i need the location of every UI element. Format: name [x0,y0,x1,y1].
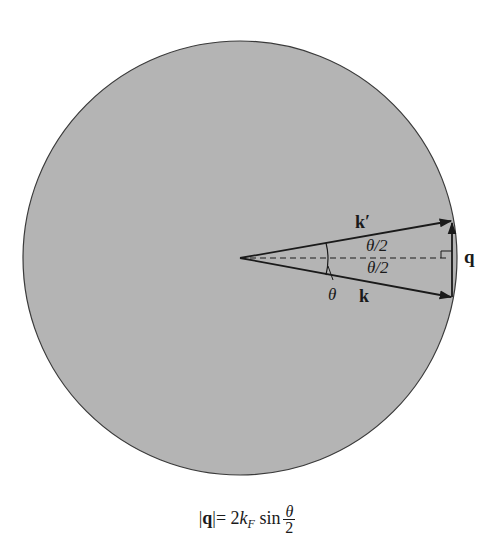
formula-k: k [240,508,248,528]
fermi-sphere-diagram [0,0,494,543]
formula-subscript: F [248,517,255,531]
magnitude-formula: |q|= 2kF sinθ2 [0,504,494,535]
fraction-denominator: 2 [283,520,295,535]
half-angle-bottom-label: θ/2 [367,258,389,278]
fraction-numerator: θ [283,504,295,520]
formula-equals: = 2 [216,508,240,528]
half-angle-top-label: θ/2 [366,236,388,256]
k-prime-label: k′ [355,212,370,233]
formula-q: q [202,508,212,528]
q-label: q [464,246,475,268]
formula-fraction: θ2 [283,504,295,535]
k-label: k [359,286,369,307]
formula-sin: sin [259,508,280,528]
theta-label: θ [328,285,336,305]
